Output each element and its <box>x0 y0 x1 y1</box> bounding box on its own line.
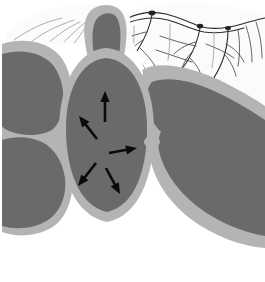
vessel-node-icon <box>148 11 155 16</box>
right-pinch-point <box>144 136 160 148</box>
vessel-node-icon <box>225 26 231 30</box>
illustration-canvas: Colonic diverticulum cross-section Intra… <box>0 0 265 282</box>
diverticulum-diagram <box>0 0 265 282</box>
vessel-node-icon <box>197 24 203 29</box>
left-pinch-point <box>52 128 66 138</box>
